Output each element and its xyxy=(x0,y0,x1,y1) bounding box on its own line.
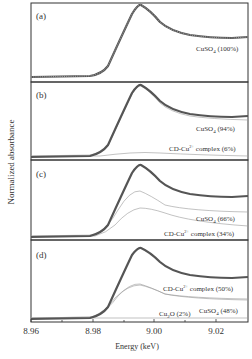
panel-d-cu2o-label: Cu2O (2%) xyxy=(159,310,191,319)
x-tick-8.98: 8.98 xyxy=(85,326,101,336)
panel-b: (b) CuSO4 (94%) CD-Cu2+ complex (6%) xyxy=(31,82,248,160)
panel-c-label: (c) xyxy=(36,169,46,179)
panel-d: (d) CD-Cu2+ complex (50%) CuSO4 (48%) Cu… xyxy=(31,240,248,322)
panel-b-cuso4-label: CuSO4 (94%) xyxy=(196,125,236,134)
x-tick-8.96: 8.96 xyxy=(23,326,39,336)
panel-c-cd-label: CD-Cu2+ complex (34%) xyxy=(164,229,235,238)
x-tick-9.00: 9.00 xyxy=(146,326,162,336)
panel-c-cuso4-label: CuSO4 (66%) xyxy=(196,215,236,224)
panel-a-frame xyxy=(31,3,248,82)
panel-a: (a) CuSO4 (100%) xyxy=(31,3,248,82)
panel-c-data-curve xyxy=(31,165,248,237)
panel-b-cd-label: CD-Cu2+ complex (6%) xyxy=(169,144,236,153)
panel-a-marker-overlay xyxy=(31,5,248,77)
panel-a-cuso4-label: CuSO4 (100%) xyxy=(196,45,239,54)
xanes-figure: (a) CuSO4 (100%) (b) CuSO4 (94%) CD-Cu2+… xyxy=(0,0,252,359)
x-axis-label: Energy (keV) xyxy=(115,342,159,351)
panel-b-label: (b) xyxy=(36,90,47,100)
panel-a-data-curve xyxy=(31,5,248,77)
y-axis-label: Normalized absorbance xyxy=(6,119,16,204)
panel-c: (c) CuSO4 (66%) CD-Cu2+ complex (34%) xyxy=(31,160,248,240)
panel-d-cd-label: CD-Cu2+ complex (50%) xyxy=(163,284,234,293)
x-tick-9.02: 9.02 xyxy=(208,326,224,336)
panel-a-label: (a) xyxy=(36,11,46,21)
panel-d-label: (d) xyxy=(36,250,47,260)
panel-c-frame xyxy=(31,160,248,240)
panel-d-cuso4-label: CuSO4 (48%) xyxy=(199,307,239,316)
